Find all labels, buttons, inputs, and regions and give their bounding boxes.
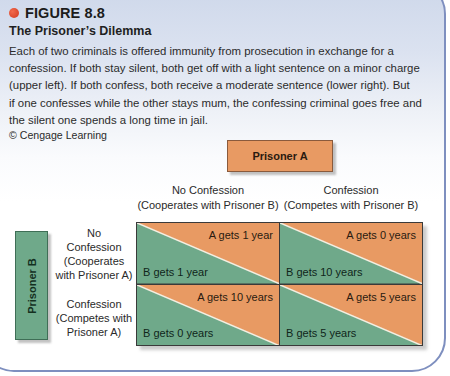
payoff-a: A gets 10 years [197, 291, 273, 303]
payoff-b: B gets 1 year [143, 266, 208, 278]
caption-line: Each of two criminals is offered immunit… [9, 43, 445, 60]
payoff-b: B gets 10 years [286, 266, 362, 278]
caption-line: confession. If both stay silent, both ge… [9, 60, 445, 77]
payoff-cell-nc-c: A gets 0 years B gets 10 years [280, 223, 422, 284]
row-header-confession: Confession (Competes with Prisoner A) [52, 297, 136, 339]
column-header-no-confession: No Confession (Cooperates with Prisoner … [133, 183, 283, 213]
payoff-matrix: A gets 1 year B gets 1 year A gets 0 yea… [136, 222, 423, 346]
caption-line: if one confesses while the other stays m… [9, 95, 445, 112]
row-header-no-confession: No Confession (Cooperates with Prisoner … [52, 226, 136, 282]
prisoner-b-label-text: Prisoner B [26, 258, 38, 314]
prisoner-b-label: Prisoner B [15, 231, 48, 340]
column-header-confession: Confession (Competes with Prisoner B) [276, 183, 426, 213]
payoff-a: A gets 0 years [346, 229, 416, 241]
column-header-line: (Cooperates with Prisoner B) [133, 198, 283, 213]
figure-credit: © Cengage Learning [9, 129, 107, 141]
payoff-cell-c-nc: A gets 10 years B gets 0 years [137, 285, 279, 346]
row-header-line: No [52, 226, 136, 240]
row-header-line: Confession [52, 240, 136, 254]
row-header-line: Prisoner A) [52, 325, 136, 339]
figure-title: The Prisoner’s Dilemma [9, 24, 151, 38]
caption-line: (upper left). If both confess, both rece… [9, 77, 445, 94]
bullet-dot-icon [9, 8, 19, 18]
column-header-line: (Competes with Prisoner B) [276, 198, 426, 213]
column-header-line: No Confession [133, 183, 283, 198]
row-header-line: (Cooperates [52, 254, 136, 268]
figure-header: FIGURE 8.8 [9, 5, 105, 21]
payoff-a: A gets 1 year [209, 229, 273, 241]
payoff-b: B gets 0 years [143, 327, 213, 339]
payoff-cell-c-c: A gets 5 years B gets 5 years [280, 285, 422, 346]
figure-caption: Each of two criminals is offered immunit… [9, 43, 445, 129]
figure-number: FIGURE 8.8 [25, 5, 105, 21]
row-header-line: Confession [52, 297, 136, 311]
row-header-line: with Prisoner A) [52, 268, 136, 282]
payoff-cell-nc-nc: A gets 1 year B gets 1 year [137, 223, 279, 284]
column-header-line: Confession [276, 183, 426, 198]
payoff-a: A gets 5 years [346, 291, 416, 303]
caption-line: the silent one spends a long time in jai… [9, 112, 445, 129]
payoff-b: B gets 5 years [286, 327, 356, 339]
prisoner-a-label: Prisoner A [227, 140, 333, 172]
row-header-line: (Competes with [52, 311, 136, 325]
